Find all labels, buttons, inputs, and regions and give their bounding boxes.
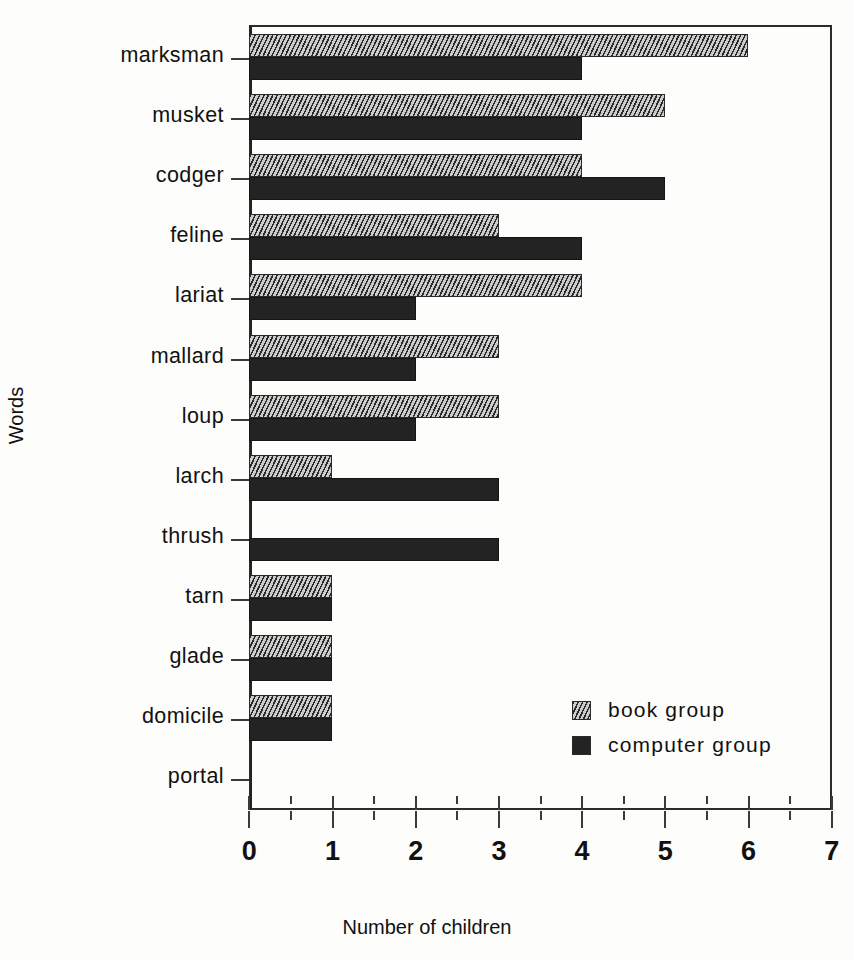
y-axis-label-feline: feline bbox=[170, 223, 224, 248]
bar-glade-book-group[interactable] bbox=[249, 635, 332, 658]
x-axis-inner-minor-tick bbox=[373, 796, 375, 804]
x-axis-ticklabel-7: 7 bbox=[824, 836, 839, 867]
x-axis-inner-tick-7 bbox=[831, 796, 833, 810]
bar-tarn-book-group[interactable] bbox=[249, 575, 332, 598]
y-axis-label-musket: musket bbox=[152, 103, 224, 128]
y-axis-label-glade: glade bbox=[169, 644, 224, 669]
y-axis-tick bbox=[231, 779, 249, 781]
bar-glade-computer-group[interactable] bbox=[249, 658, 332, 681]
y-axis-label-thrush: thrush bbox=[162, 524, 224, 549]
x-axis-tick-5 bbox=[664, 811, 666, 828]
x-axis-inner-minor-tick bbox=[290, 796, 292, 804]
x-axis-inner-minor-tick bbox=[789, 796, 791, 804]
y-axis-tick bbox=[231, 359, 249, 361]
bar-mallard-computer-group[interactable] bbox=[249, 358, 415, 381]
y-axis-label-codger: codger bbox=[156, 163, 224, 188]
y-axis-tick bbox=[231, 419, 249, 421]
bar-marksman-book-group[interactable] bbox=[249, 34, 748, 57]
y-axis-label-lariat: lariat bbox=[175, 283, 224, 308]
y-axis-tick bbox=[231, 659, 249, 661]
bar-chart-figure: Words marksmanmusketcodgerfelinelariatma… bbox=[0, 0, 854, 961]
x-axis-tick-1 bbox=[332, 811, 334, 828]
x-axis-inner-tick-5 bbox=[664, 796, 666, 810]
legend-label-computer-group: computer group bbox=[608, 733, 772, 757]
x-axis-tick-6 bbox=[748, 811, 750, 828]
x-axis-ticklabel-4: 4 bbox=[575, 836, 590, 867]
y-axis-tick bbox=[231, 58, 249, 60]
y-axis-label-larch: larch bbox=[175, 464, 224, 489]
y-axis-tick bbox=[231, 539, 249, 541]
chart-legend: book group computer group bbox=[572, 698, 772, 768]
x-axis-minor-tick bbox=[373, 811, 375, 820]
bar-lariat-book-group[interactable] bbox=[249, 274, 582, 297]
bar-loup-book-group[interactable] bbox=[249, 395, 499, 418]
x-axis-minor-tick bbox=[789, 811, 791, 820]
x-axis-ticklabel-5: 5 bbox=[658, 836, 673, 867]
bar-musket-computer-group[interactable] bbox=[249, 117, 582, 140]
x-axis-minor-tick bbox=[456, 811, 458, 820]
x-axis-ticklabel-6: 6 bbox=[741, 836, 756, 867]
y-axis-label-mallard: mallard bbox=[151, 344, 224, 369]
bar-group-larch bbox=[249, 455, 831, 503]
bar-mallard-book-group[interactable] bbox=[249, 335, 499, 358]
bar-group-thrush bbox=[249, 515, 831, 563]
y-axis-tick bbox=[231, 599, 249, 601]
x-axis-inner-tick-4 bbox=[581, 796, 583, 810]
bar-group-feline bbox=[249, 214, 831, 262]
y-axis-title: Words bbox=[5, 366, 28, 466]
x-axis-ticklabel-3: 3 bbox=[491, 836, 506, 867]
bar-group-glade bbox=[249, 635, 831, 683]
solid-swatch-icon bbox=[572, 736, 591, 755]
x-axis-inner-minor-tick bbox=[706, 796, 708, 804]
y-axis-tick bbox=[231, 238, 249, 240]
bar-marksman-computer-group[interactable] bbox=[249, 57, 582, 80]
bar-feline-book-group[interactable] bbox=[249, 214, 499, 237]
y-axis-tick bbox=[231, 479, 249, 481]
bar-group-loup bbox=[249, 395, 831, 443]
y-axis-tick bbox=[231, 118, 249, 120]
bar-loup-computer-group[interactable] bbox=[249, 418, 415, 441]
x-axis-tick-7 bbox=[831, 811, 833, 828]
x-axis-ticklabel-2: 2 bbox=[408, 836, 423, 867]
y-axis-label-loup: loup bbox=[182, 404, 224, 429]
x-axis-minor-tick bbox=[706, 811, 708, 820]
x-axis-ticklabel-1: 1 bbox=[325, 836, 340, 867]
legend-item-computer-group[interactable]: computer group bbox=[572, 733, 772, 757]
x-axis-minor-tick bbox=[623, 811, 625, 820]
bar-thrush-computer-group[interactable] bbox=[249, 538, 499, 561]
y-axis-tick bbox=[231, 178, 249, 180]
bar-tarn-computer-group[interactable] bbox=[249, 598, 332, 621]
bar-group-lariat bbox=[249, 274, 831, 322]
x-axis-inner-tick-6 bbox=[748, 796, 750, 810]
bar-domicile-computer-group[interactable] bbox=[249, 718, 332, 741]
bar-domicile-book-group[interactable] bbox=[249, 695, 332, 718]
bar-musket-book-group[interactable] bbox=[249, 94, 665, 117]
bar-lariat-computer-group[interactable] bbox=[249, 297, 415, 320]
x-axis-minor-tick bbox=[540, 811, 542, 820]
x-axis-inner-minor-tick bbox=[540, 796, 542, 804]
hatched-swatch-icon bbox=[572, 701, 591, 720]
legend-label-book-group: book group bbox=[608, 698, 725, 722]
bar-larch-book-group[interactable] bbox=[249, 455, 332, 478]
x-axis-tick-2 bbox=[415, 811, 417, 828]
y-axis-label-portal: portal bbox=[168, 764, 224, 789]
bar-larch-computer-group[interactable] bbox=[249, 478, 499, 501]
bar-group-marksman bbox=[249, 34, 831, 82]
bar-group-musket bbox=[249, 94, 831, 142]
legend-item-book-group[interactable]: book group bbox=[572, 698, 772, 722]
y-axis-label-domicile: domicile bbox=[142, 704, 224, 729]
bar-codger-computer-group[interactable] bbox=[249, 177, 665, 200]
bar-feline-computer-group[interactable] bbox=[249, 237, 582, 260]
bar-codger-book-group[interactable] bbox=[249, 154, 582, 177]
bar-group-codger bbox=[249, 154, 831, 202]
y-axis-tick bbox=[231, 719, 249, 721]
x-axis-inner-tick-3 bbox=[498, 796, 500, 810]
x-axis-minor-tick bbox=[290, 811, 292, 820]
y-axis-label-tarn: tarn bbox=[185, 584, 224, 609]
y-axis-label-marksman: marksman bbox=[120, 43, 224, 68]
x-axis-inner-minor-tick bbox=[456, 796, 458, 804]
x-axis-tick-4 bbox=[581, 811, 583, 828]
x-axis-inner-tick-0 bbox=[248, 796, 250, 810]
x-axis-tick-3 bbox=[498, 811, 500, 828]
bar-group-tarn bbox=[249, 575, 831, 623]
